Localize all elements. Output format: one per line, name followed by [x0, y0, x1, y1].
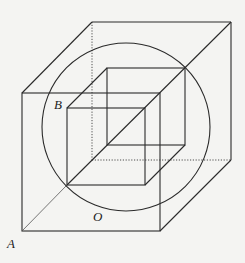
outer-top-left-connector [22, 22, 92, 93]
outer-bottom-right-connector [160, 160, 231, 231]
cube-sphere-diagram: B O A [0, 0, 245, 263]
label-o: O [93, 209, 103, 224]
main-diagonal [22, 22, 231, 231]
label-a: A [6, 236, 15, 251]
diagonal-segment-a-to-inner [22, 185, 67, 231]
inner-top-left-connector [67, 68, 107, 108]
inner-bottom-right-connector [145, 145, 185, 185]
label-b: B [54, 97, 62, 112]
